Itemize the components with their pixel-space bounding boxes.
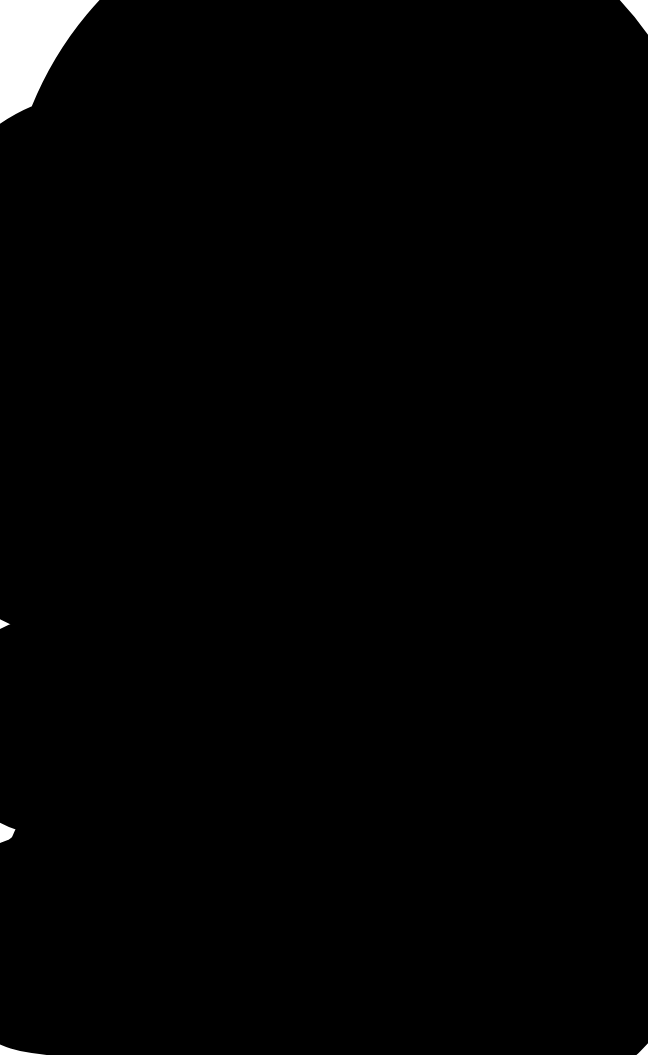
teardrop-property: Property (333, 826, 588, 996)
worksheet-canvas: Trail of Tears Love Rule of Law Equality… (0, 0, 648, 1055)
teardrop-shape-icon (333, 826, 588, 996)
teardrop-label: Rights (487, 627, 541, 728)
teardrop-label: Property (479, 838, 533, 977)
title-line-1: Trail (265, 162, 349, 277)
